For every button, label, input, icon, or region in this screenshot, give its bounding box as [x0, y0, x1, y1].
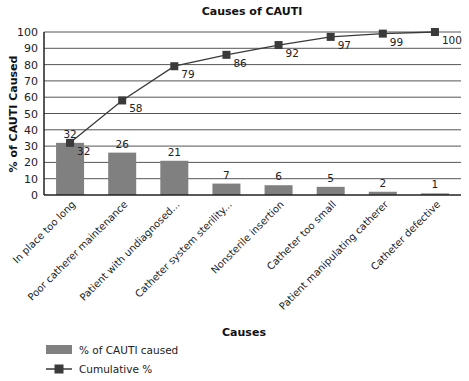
bar-data-label: 7 — [223, 169, 230, 181]
x-axis-label: Causes — [222, 326, 266, 339]
y-tick-label: 50 — [24, 108, 38, 121]
y-tick-label: 100 — [17, 26, 38, 39]
y-tick-label: 70 — [24, 75, 38, 88]
y-tick-label: 30 — [24, 140, 38, 153]
legend-square-marker-icon — [55, 365, 64, 374]
category-label: Catheter system sterility... — [133, 199, 234, 300]
line-marker — [66, 139, 74, 147]
line-marker — [170, 62, 178, 70]
pareto-chart: Causes of CAUTI 0102030405060708090100 %… — [0, 0, 469, 381]
line-marker — [327, 33, 335, 41]
bar-data-label: 2 — [379, 177, 386, 189]
bar — [265, 185, 293, 195]
line-marker — [379, 30, 387, 38]
line-data-label: 32 — [77, 145, 90, 157]
line-data-label: 97 — [338, 39, 351, 51]
y-tick-label: 80 — [24, 59, 38, 72]
category-label: Poor catherer maintenance — [26, 199, 130, 303]
y-tick-label: 60 — [24, 91, 38, 104]
bar — [108, 153, 136, 195]
bar-data-label: 26 — [116, 138, 130, 150]
line-marker — [222, 51, 230, 59]
legend-label-line: Cumulative % — [79, 363, 152, 375]
line-data-label: 99 — [390, 36, 403, 48]
line-data-label: 100 — [442, 34, 462, 46]
bar-data-label: 5 — [327, 172, 334, 184]
line-data-label: 86 — [233, 57, 247, 69]
line-marker — [118, 96, 126, 104]
line-data-label: 92 — [286, 47, 299, 59]
category-label: Patient with undiagnosed... — [78, 199, 182, 303]
bar-data-label: 1 — [432, 178, 439, 190]
category-label: Patient manipulating catherer — [277, 198, 391, 312]
bar-data-label: 21 — [168, 146, 181, 158]
legend-bar-swatch — [46, 345, 72, 354]
y-axis-label: % of CAUTI Caused — [7, 56, 20, 173]
y-tick-label: 0 — [31, 189, 38, 202]
y-tick-label: 90 — [24, 42, 38, 55]
y-tick-label: 40 — [24, 124, 38, 137]
bar — [212, 184, 240, 195]
line-data-label: 79 — [181, 68, 194, 80]
bar-data-label: 32 — [63, 128, 76, 140]
bar — [160, 161, 188, 195]
line-data-label: 58 — [129, 102, 142, 114]
y-tick-label: 10 — [24, 173, 38, 186]
line-marker — [431, 28, 439, 36]
legend-label-bar: % of CAUTI caused — [79, 344, 178, 356]
y-tick-label: 20 — [24, 156, 38, 169]
bar-data-label: 6 — [275, 170, 282, 182]
line-marker — [275, 41, 283, 49]
chart-title: Causes of CAUTI — [202, 5, 303, 18]
bar — [317, 187, 345, 195]
